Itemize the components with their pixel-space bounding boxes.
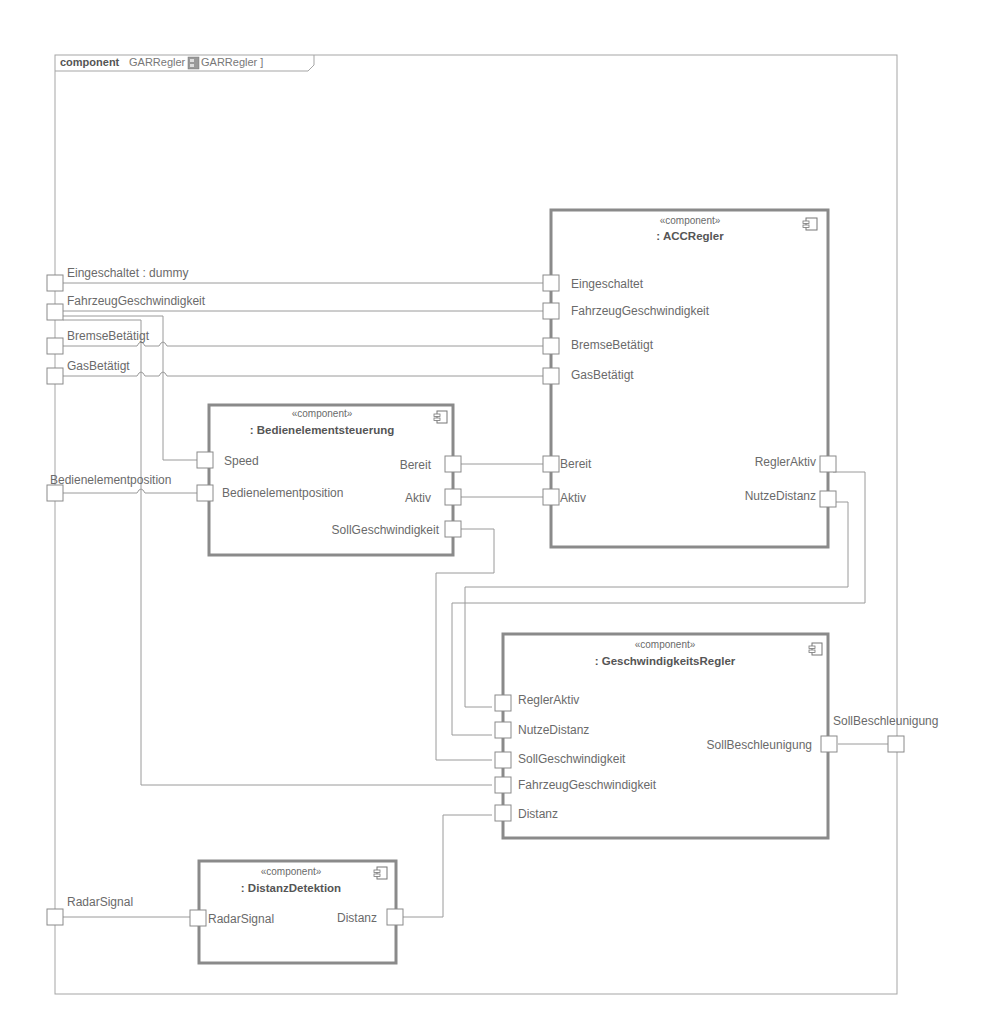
acc-port-nutzedistanz[interactable] [820,491,836,507]
connector-distanz [403,815,492,917]
ext-port-bremse[interactable] [47,338,63,354]
frame-keyword: component [60,56,120,68]
gr-stereotype: «component» [635,639,696,650]
gr-port-label: SollBeschleunigung [707,738,812,752]
component-distanzdetektion[interactable]: «component» : DistanzDetektion RadarSign… [190,861,403,963]
bedien-port-aktiv[interactable] [445,489,461,505]
ext-port-eingeschaltet[interactable] [47,275,63,291]
ext-port-bedienposition[interactable] [47,485,63,501]
gr-port-label: NutzeDistanz [518,723,589,737]
dist-port-radar[interactable] [190,910,206,926]
gr-port-nutzedistanz[interactable] [495,722,511,738]
ext-port-label: GasBetätigt [67,359,130,373]
dist-stereotype: «component» [261,866,322,877]
bedien-port-label: Speed [224,454,259,468]
acc-port-label: ReglerAktiv [755,455,816,469]
dist-port-distanz[interactable] [387,909,403,925]
bedien-port-bedienposition[interactable] [197,485,213,501]
acc-port-regleraktiv[interactable] [820,456,836,472]
bedien-port-speed[interactable] [197,452,213,468]
bedien-port-label: SollGeschwindigkeit [332,523,440,537]
dist-port-label: RadarSignal [208,912,274,926]
ext-port-label: BremseBetätigt [67,329,150,343]
bedien-stereotype: «component» [292,408,353,419]
gr-port-label: ReglerAktiv [518,693,579,707]
component-accregler[interactable]: «component» : ACCRegler Eingeschaltet Fa… [543,210,836,547]
acc-port-eingeschaltet[interactable] [543,275,559,291]
connector-bedienposition [63,489,197,493]
gr-port-regleraktiv[interactable] [495,695,511,711]
bedien-name: : Bedienelementsteuerung [250,424,394,436]
connector-gas [63,372,543,376]
acc-port-label: NutzeDistanz [745,489,816,503]
acc-port-label: Aktiv [560,491,586,505]
ext-port-gas[interactable] [47,368,63,384]
ext-port-fahrzeug[interactable] [47,304,63,320]
bedien-port-label: Bereit [400,458,432,472]
component-geschwindigkeitsregler[interactable]: «component» : GeschwindigkeitsRegler Reg… [495,634,837,838]
gr-port-label: FahrzeugGeschwindigkeit [518,778,657,792]
ext-port-radar[interactable] [47,909,63,925]
component-type-icon [188,57,199,69]
acc-port-bremse[interactable] [543,338,559,354]
gr-port-label: Distanz [518,807,558,821]
gr-port-label: SollGeschwindigkeit [518,752,626,766]
acc-port-bereit[interactable] [543,456,559,472]
acc-port-gas[interactable] [543,368,559,384]
bedien-port-bereit[interactable] [445,456,461,472]
ext-port-label: RadarSignal [67,895,133,909]
bedien-port-sollgeschw[interactable] [445,521,461,537]
gr-port-fahrzeug[interactable] [495,777,511,793]
dist-name: : DistanzDetektion [241,882,341,894]
ext-port-label: FahrzeugGeschwindigkeit [67,294,206,308]
acc-port-label: BremseBetätigt [571,338,654,352]
gr-port-sollgeschw[interactable] [495,752,511,768]
gr-name: : GeschwindigkeitsRegler [595,655,736,667]
acc-name: : ACCRegler [656,230,724,242]
ext-port-label: Eingeschaltet : dummy [67,266,188,280]
component-diagram: component GARRegler [ GARRegler ] [0,0,1004,1035]
ext-port-sollbeschl[interactable] [888,736,904,752]
ext-port-label: Bedienelementposition [50,473,171,487]
dist-port-label: Distanz [337,911,377,925]
gr-port-sollbeschl[interactable] [821,736,837,752]
bedien-port-label: Aktiv [405,491,431,505]
bedien-port-label: Bedienelementposition [222,486,343,500]
acc-port-fahrzeug[interactable] [543,303,559,319]
acc-port-aktiv[interactable] [543,489,559,505]
acc-port-label: FahrzeugGeschwindigkeit [571,304,710,318]
acc-port-label: Eingeschaltet [571,277,644,291]
ext-port-label: SollBeschleunigung [833,714,938,728]
acc-stereotype: «component» [660,215,721,226]
acc-port-label: Bereit [560,457,592,471]
component-bedienelementsteuerung[interactable]: «component» : Bedienelementsteuerung Spe… [197,405,461,555]
acc-port-label: GasBetätigt [571,368,634,382]
gr-port-distanz[interactable] [495,805,511,821]
frame-name: GARRegler [ [129,56,191,68]
frame-type-ref: GARRegler ] [201,56,263,68]
